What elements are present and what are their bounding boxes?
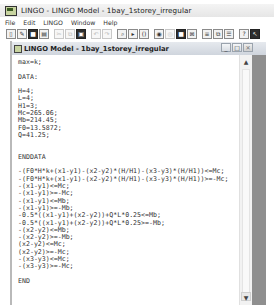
close-all-icon[interactable]: ⊠ xyxy=(187,29,197,39)
close-button[interactable]: ✕ xyxy=(243,43,253,52)
model-window-titlebar[interactable]: LINGO Model - 1bay_1storey_irregular _ □… xyxy=(12,42,266,55)
menu-edit[interactable]: Edit xyxy=(23,19,35,26)
lingo-app-icon xyxy=(5,6,17,16)
toolbar: ▯ ✎ ■ ▤ ✂ ⧉ ▣ ↶ ↷ ⌕ ▸ () ◉ ◎ ■ ⊠ ≡ ⧉ ☰ ?… xyxy=(0,27,274,41)
undo-icon[interactable]: ↶ xyxy=(91,29,101,39)
cascade-icon[interactable]: ⧉ xyxy=(213,29,223,39)
cut-icon[interactable]: ✂ xyxy=(54,29,64,39)
scroll-thumb[interactable] xyxy=(242,69,250,294)
menu-window[interactable]: Window xyxy=(71,19,95,26)
open-icon[interactable]: ✎ xyxy=(17,29,27,39)
lingo-app-window: LINGO - LINGO Model - 1bay_1storey_irreg… xyxy=(0,0,274,305)
solution-icon[interactable]: ◎ xyxy=(165,29,175,39)
copy-icon[interactable]: ⧉ xyxy=(65,29,75,39)
scroll-down-arrow-icon[interactable]: ▼ xyxy=(241,292,251,301)
context-help-icon[interactable]: ↖ xyxy=(250,29,260,39)
menubar: File Edit LINGO Window Help xyxy=(0,18,274,27)
new-icon[interactable]: ▯ xyxy=(6,29,16,39)
window-controls: _ □ ✕ xyxy=(220,43,253,52)
find-icon[interactable]: ⌕ xyxy=(117,29,127,39)
menu-lingo[interactable]: LINGO xyxy=(43,19,63,26)
scroll-up-arrow-icon[interactable]: ▲ xyxy=(241,57,251,66)
options-icon[interactable]: ☰ xyxy=(224,29,234,39)
redo-icon[interactable]: ↷ xyxy=(102,29,112,39)
paste-icon[interactable]: ▣ xyxy=(76,29,86,39)
menu-file[interactable]: File xyxy=(5,19,15,26)
menu-help[interactable]: Help xyxy=(103,19,117,26)
model-code[interactable]: max=k; DATA: H=4; L=4; H1=3; Mc=265.06; … xyxy=(12,55,239,285)
mdi-frame-edge xyxy=(252,55,266,305)
maximize-button[interactable]: □ xyxy=(232,43,242,52)
goto-icon[interactable]: ▸ xyxy=(128,29,138,39)
model-window: LINGO Model - 1bay_1storey_irregular _ □… xyxy=(10,41,264,305)
match-paren-icon[interactable]: () xyxy=(139,29,149,39)
send-to-back-icon[interactable]: ■ xyxy=(176,29,186,39)
model-editor[interactable]: max=k; DATA: H=4; L=4; H1=3; Mc=265.06; … xyxy=(12,55,239,305)
vertical-scrollbar[interactable]: ▲ ▼ xyxy=(239,55,252,305)
solve-icon[interactable]: ◉ xyxy=(154,29,164,39)
help-icon[interactable]: ? xyxy=(239,29,249,39)
save-icon[interactable]: ■ xyxy=(28,29,38,39)
model-window-icon xyxy=(14,45,22,53)
print-icon[interactable]: ▤ xyxy=(39,29,49,39)
app-title: LINGO - LINGO Model - 1bay_1storey_irreg… xyxy=(21,6,192,15)
app-titlebar: LINGO - LINGO Model - 1bay_1storey_irreg… xyxy=(0,4,274,17)
model-window-title: LINGO Model - 1bay_1storey_irregular xyxy=(24,45,169,53)
tile-icon[interactable]: ≡ xyxy=(202,29,212,39)
minimize-button[interactable]: _ xyxy=(221,43,231,52)
